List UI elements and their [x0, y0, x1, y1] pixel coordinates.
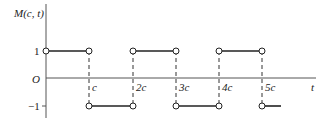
x-tick-label-c: c: [92, 82, 97, 93]
y-tick-label-1: 1: [34, 46, 40, 57]
square-wave-diagram: M(c, t) 1 O −1 c 2c 3c 4c 5c t: [0, 0, 330, 127]
x-tick-label-2c: 2c: [136, 82, 146, 93]
origin-label: O: [32, 74, 40, 85]
y-axis-label: M(c, t): [14, 8, 44, 19]
x-tick-label-5c: 5c: [265, 82, 275, 93]
x-tick-label-4c: 4c: [222, 82, 232, 93]
x-tick-label-3c: 3c: [179, 82, 189, 93]
x-axis-label: t: [311, 82, 314, 93]
plot-svg: [0, 0, 330, 127]
y-tick-label-minus-1: −1: [28, 101, 40, 112]
